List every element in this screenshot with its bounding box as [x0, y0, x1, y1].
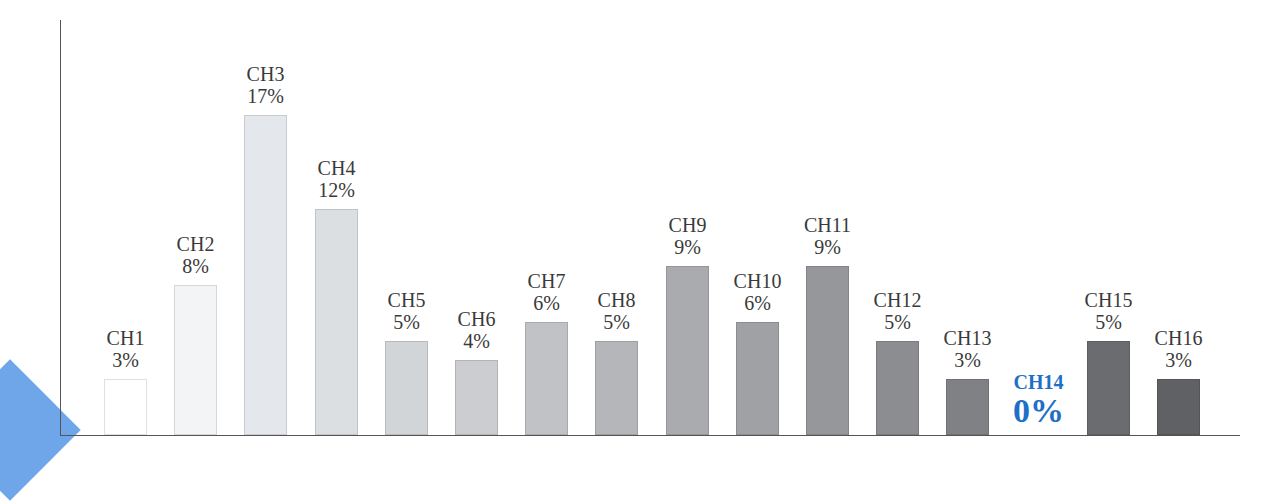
decorative-blue-diamond	[0, 359, 81, 500]
bar-label-ch11: CH119%	[788, 214, 868, 258]
bar-label-ch3: CH317%	[226, 63, 306, 107]
value-label: 6%	[718, 292, 798, 314]
bar-ch13	[946, 379, 989, 435]
bar-label-ch1: CH13%	[86, 327, 166, 371]
category-label: CH11	[788, 214, 868, 236]
category-label: CH12	[858, 289, 938, 311]
bar-label-ch2: CH28%	[156, 233, 236, 277]
value-label: 5%	[1069, 311, 1149, 333]
bar-label-ch13: CH133%	[928, 327, 1008, 371]
bar-label-ch10: CH106%	[718, 270, 798, 314]
bar-ch3	[244, 115, 287, 435]
category-label: CH5	[367, 289, 447, 311]
value-label: 9%	[788, 236, 868, 258]
value-label: 3%	[928, 349, 1008, 371]
category-label: CH9	[648, 214, 728, 236]
category-label: CH14	[999, 371, 1079, 393]
bar-ch8	[595, 341, 638, 435]
value-label: 5%	[577, 311, 657, 333]
value-label: 3%	[1139, 349, 1219, 371]
value-label: 6%	[507, 292, 587, 314]
bar-ch1	[104, 379, 147, 435]
bar-ch5	[385, 341, 428, 435]
value-label: 0%	[999, 393, 1079, 429]
bar-ch11	[806, 266, 849, 435]
value-label: 5%	[858, 311, 938, 333]
bar-label-ch8: CH85%	[577, 289, 657, 333]
bar-label-ch12: CH125%	[858, 289, 938, 333]
value-label: 12%	[297, 179, 377, 201]
bar-ch4	[315, 209, 358, 435]
bar-ch15	[1087, 341, 1130, 435]
category-label: CH1	[86, 327, 166, 349]
bar-label-ch15: CH155%	[1069, 289, 1149, 333]
value-label: 9%	[648, 236, 728, 258]
bar-ch16	[1157, 379, 1200, 435]
category-label: CH15	[1069, 289, 1149, 311]
bar-ch2	[174, 285, 217, 435]
bar-label-ch16: CH163%	[1139, 327, 1219, 371]
bar-label-ch14: CH140%	[999, 371, 1079, 429]
category-label: CH13	[928, 327, 1008, 349]
bar-label-ch7: CH76%	[507, 270, 587, 314]
value-label: 8%	[156, 255, 236, 277]
category-label: CH10	[718, 270, 798, 292]
category-label: CH3	[226, 63, 306, 85]
bar-label-ch6: CH64%	[437, 308, 517, 352]
category-label: CH7	[507, 270, 587, 292]
x-axis	[60, 435, 1240, 436]
bar-label-ch9: CH99%	[648, 214, 728, 258]
bar-label-ch4: CH412%	[297, 157, 377, 201]
value-label: 17%	[226, 85, 306, 107]
y-axis	[60, 20, 61, 436]
bar-ch12	[876, 341, 919, 435]
category-label: CH4	[297, 157, 377, 179]
bar-ch10	[736, 322, 779, 435]
category-label: CH8	[577, 289, 657, 311]
category-label: CH6	[437, 308, 517, 330]
bar-ch6	[455, 360, 498, 435]
category-label: CH2	[156, 233, 236, 255]
bar-label-ch5: CH55%	[367, 289, 447, 333]
value-label: 5%	[367, 311, 447, 333]
value-label: 3%	[86, 349, 166, 371]
bar-ch7	[525, 322, 568, 435]
value-label: 4%	[437, 330, 517, 352]
bar-ch9	[666, 266, 709, 435]
category-label: CH16	[1139, 327, 1219, 349]
